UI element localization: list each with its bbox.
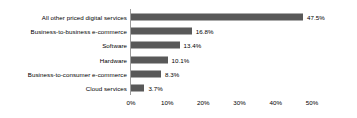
x-axis: 0% 10% 20% 30% 40% 50% <box>0 95 357 118</box>
bar <box>131 28 192 35</box>
value-label: 13.4% <box>184 42 202 49</box>
bar <box>131 84 144 91</box>
value-label: 47.5% <box>307 13 325 20</box>
category-label: Business-to-business e-commerce <box>31 28 127 35</box>
category-label: Cloud services <box>86 84 127 91</box>
x-tick-label: 20% <box>197 99 210 106</box>
chart-row: Business-to-business e-commerce 16.8% <box>0 24 357 38</box>
x-tick-label: 30% <box>233 99 246 106</box>
chart-row: Cloud services 3.7% <box>0 81 357 95</box>
category-label: Business-to-consumer e-commerce <box>28 70 127 77</box>
chart-row: Software 13.4% <box>0 38 357 52</box>
x-tick-label: 10% <box>161 99 174 106</box>
value-label: 16.8% <box>196 28 214 35</box>
bar-chart: All other priced digital services 47.5% … <box>0 0 357 118</box>
x-tick-label: 40% <box>270 99 283 106</box>
plot-area: All other priced digital services 47.5% … <box>0 0 357 95</box>
x-tick-label: 0% <box>126 99 135 106</box>
bar <box>131 13 303 20</box>
category-label: All other priced digital services <box>42 13 127 20</box>
value-label: 10.1% <box>172 56 190 63</box>
bar <box>131 70 161 77</box>
category-label: Hardware <box>100 56 127 63</box>
value-label: 3.7% <box>148 84 162 91</box>
chart-row: Hardware 10.1% <box>0 53 357 67</box>
value-label: 8.3% <box>165 70 179 77</box>
bar <box>131 42 180 49</box>
x-tick-label: 50% <box>306 99 319 106</box>
chart-row: All other priced digital services 47.5% <box>0 10 357 24</box>
chart-row: Business-to-consumer e-commerce 8.3% <box>0 67 357 81</box>
category-label: Software <box>102 42 127 49</box>
bar <box>131 56 168 63</box>
